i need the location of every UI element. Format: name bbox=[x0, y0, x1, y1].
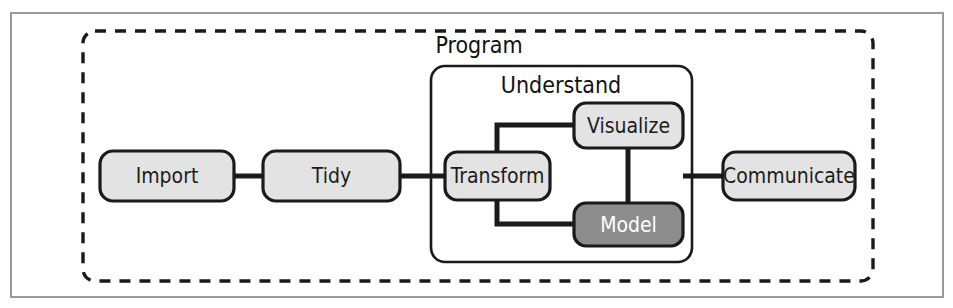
node-transform[interactable]: Transform bbox=[445, 152, 550, 200]
model-label: Model bbox=[600, 213, 657, 237]
diagram-canvas: Program Understand Import Tidy Transform… bbox=[0, 0, 953, 308]
workflow-diagram: Program Understand Import Tidy Transform… bbox=[0, 0, 953, 308]
transform-label: Transform bbox=[450, 164, 545, 188]
visualize-label: Visualize bbox=[587, 114, 670, 138]
node-tidy[interactable]: Tidy bbox=[263, 151, 400, 201]
understand-group-label: Understand bbox=[501, 72, 621, 98]
node-model[interactable]: Model bbox=[574, 203, 683, 246]
tidy-label: Tidy bbox=[311, 164, 351, 188]
node-import[interactable]: Import bbox=[100, 151, 234, 201]
node-visualize[interactable]: Visualize bbox=[574, 103, 683, 148]
program-group-label: Program bbox=[435, 32, 522, 58]
node-communicate[interactable]: Communicate bbox=[723, 152, 855, 200]
communicate-label: Communicate bbox=[723, 164, 855, 188]
import-label: Import bbox=[136, 164, 199, 188]
